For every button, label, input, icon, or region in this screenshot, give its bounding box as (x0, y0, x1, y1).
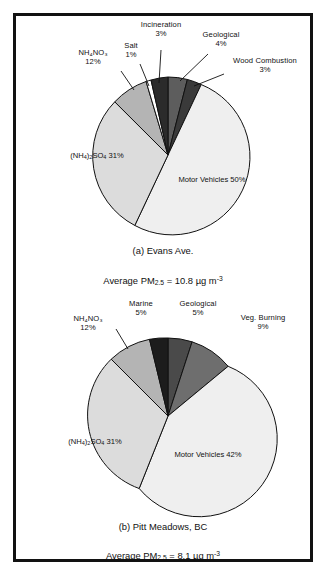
label-motor-vehicles-pitt: Motor Vehicles 42% (168, 450, 248, 459)
label-motor-pct: 42% (226, 450, 241, 459)
average-sub-pitt: 2.5 (157, 554, 166, 561)
label-geological-text: Geological (180, 299, 217, 308)
average-value-pitt: = 8.1 µg m (167, 550, 214, 561)
average-prefix-pitt: Average PM (106, 550, 157, 561)
label-sulfate-formula: (NH4)2SO4 (68, 437, 104, 446)
average-sup-pitt: -3 (214, 550, 220, 557)
label-veg-pct: 9% (229, 322, 297, 331)
label-marine-pitt: Marine 5% (116, 299, 166, 318)
leader-nh4no3 (116, 329, 128, 349)
label-geological-pct: 5% (167, 308, 229, 317)
label-nh4no3-pitt: NH₄NO₃ 12% (60, 314, 116, 333)
caption-pitt-meadows: (b) Pitt Meadows, BC (16, 521, 310, 532)
average-pitt-meadows: Average PM2.5 = 8.1 µg m-3 (16, 550, 310, 561)
label-ammonium-sulfate-pitt: (NH4)2SO4 31% (58, 437, 132, 447)
label-nh4no3-text: NH₄NO₃ (73, 314, 102, 323)
figure-frame: NH₄NO₃ 12% Salt 1% Incineration 3% Geolo… (13, 13, 313, 562)
label-nh4no3-pct: 12% (60, 323, 116, 332)
leader-lines-pitt-meadows (116, 329, 128, 349)
label-sulfate-pct: 31% (107, 437, 122, 446)
label-geological-pitt: Geological 5% (167, 299, 229, 318)
label-motor-text: Motor Vehicles (174, 450, 224, 459)
label-veg-text: Veg. Burning (241, 313, 286, 322)
chart-panel-pitt-meadows: NH₄NO₃ 12% Marine 5% Geological 5% Veg. … (16, 16, 310, 559)
label-marine-text: Marine (129, 299, 153, 308)
pie-slices-pitt-meadows (88, 338, 278, 517)
label-veg-burning-pitt: Veg. Burning 9% (229, 313, 297, 332)
label-marine-pct: 5% (116, 308, 166, 317)
